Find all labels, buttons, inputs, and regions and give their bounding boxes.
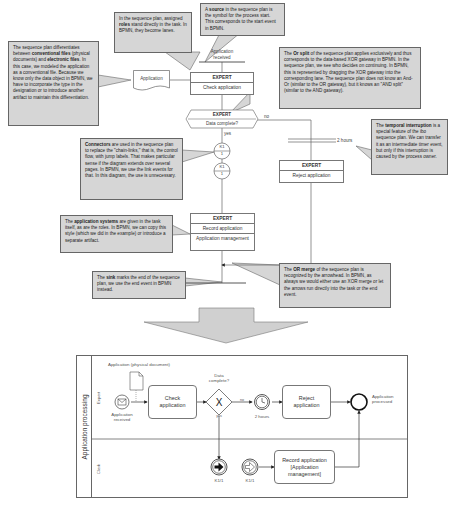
sp-task-record-application: EXPERT Record application Application ma… (190, 213, 255, 251)
end-event-label: Application processed (372, 394, 406, 405)
gateway-label: Data complete? (204, 373, 234, 384)
bpmn-task-record-application: Record application [Application manageme… (274, 450, 335, 484)
callout-roles: In the sequence plan, assigned roles sta… (114, 12, 192, 53)
callout-source: A source in the sequence plan is the sym… (200, 3, 285, 36)
start-event-label: Application received (106, 412, 138, 423)
lane-label-clerk: Clerk (93, 440, 103, 497)
callout-temporal: The temporal interruption is a special f… (371, 119, 448, 175)
transform-arrow (144, 308, 308, 343)
sp-timer-label: 2 hours (337, 138, 363, 144)
sp-no-label: no (264, 114, 274, 120)
callout-files: The sequence plan differentiates between… (8, 41, 99, 126)
callout-app-systems: The application systems are given in the… (60, 215, 173, 253)
callout-or-merge: The OR merge of the sequence plan is rec… (279, 263, 391, 308)
sp-yes-label: yes (224, 131, 236, 137)
sp-decision-question: Data complete? (196, 119, 248, 128)
sp-document-application: Application (133, 70, 170, 92)
pool-label: Application processing (76, 355, 92, 498)
bpmn-task-check-application: Check application (148, 385, 197, 419)
callout-connectors: Connectors are used in the sequence plan… (80, 138, 183, 200)
sp-connector-bottom-k: K1 (216, 164, 228, 170)
gateway-no-label: no (238, 398, 246, 403)
bpmn-task-reject-application: Reject application (282, 385, 331, 419)
gateway-yes-label: yes (213, 414, 225, 419)
sp-task-check-application: EXPERT Check application (190, 72, 254, 95)
callout-or-split: The Or split of the sequence plan applie… (279, 47, 421, 109)
sp-decision-role: EXPERT (196, 110, 248, 119)
callout-sink: The sink marks the end of the sequence p… (92, 271, 186, 299)
sp-connector-top-k: K1 (216, 144, 228, 150)
lane-label-expert: Expert (93, 356, 103, 439)
sp-connector-top-n: 1 (216, 151, 228, 157)
timer-label: 2 hours (248, 414, 276, 419)
sp-connector-bottom-n: 1 (216, 171, 228, 177)
link-catch-label: K1/1 (240, 478, 260, 483)
data-object-label: Application (physical document) (108, 362, 198, 367)
sp-start-label: Application received (205, 49, 239, 60)
bpmn-pool (76, 355, 408, 498)
sp-task-reject-application: EXPERT Reject application (279, 160, 344, 183)
link-throw-label: K1/1 (209, 478, 229, 483)
